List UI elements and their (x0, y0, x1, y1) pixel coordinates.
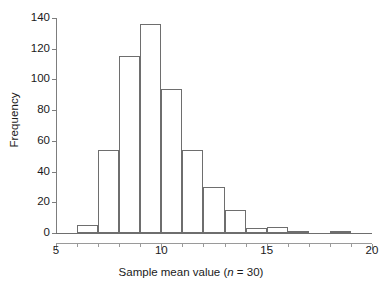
y-axis-tick-mark (52, 18, 56, 19)
y-axis-tick-mark (52, 172, 56, 173)
x-axis-tick-label: 10 (141, 244, 181, 257)
y-axis-tick-label: 100 (24, 74, 50, 86)
histogram-bar (225, 210, 246, 233)
histogram-bar (330, 231, 351, 233)
x-axis-tick-labels: 5101520 (56, 244, 372, 260)
y-axis-tick-mark (52, 233, 56, 234)
y-axis-tick-label: 80 (24, 104, 50, 116)
x-axis-tick-label: 5 (36, 244, 76, 257)
x-axis-title: Sample mean value (n = 30) (0, 266, 382, 278)
histogram-bar (203, 187, 224, 233)
x-axis-title-suffix: = 30) (234, 266, 264, 278)
y-axis-tick-label: 120 (24, 43, 50, 55)
histogram-bar (246, 228, 267, 233)
y-axis-tick-mark (52, 141, 56, 142)
histogram-figure: Frequency 020406080100120140 5101520 Sam… (0, 0, 382, 293)
y-axis-tick-label: 40 (24, 166, 50, 178)
y-axis-title-text: Frequency (8, 92, 20, 147)
histogram-bar (98, 150, 119, 233)
histogram-bar (182, 150, 203, 233)
y-axis-tick-mark (52, 202, 56, 203)
y-axis-tick-label: 20 (24, 197, 50, 209)
y-axis-tick-label: 60 (24, 135, 50, 147)
histogram-bar (119, 56, 140, 233)
y-axis-tick-label: 0 (24, 227, 50, 239)
y-axis-tick-label: 140 (24, 12, 50, 24)
histogram-bar (267, 227, 288, 233)
plot-area (56, 14, 372, 236)
histogram-bar (161, 89, 182, 233)
y-axis-tick-mark (52, 110, 56, 111)
x-axis-tick-label: 20 (352, 244, 382, 257)
histogram-bar (77, 225, 98, 233)
x-axis-tick-label: 15 (247, 244, 287, 257)
y-axis-tick-mark (52, 49, 56, 50)
histogram-bar (288, 231, 309, 233)
histogram-bar (140, 24, 161, 233)
histogram-bars (56, 14, 372, 234)
x-axis-title-prefix: Sample mean value ( (119, 266, 228, 278)
y-axis-tick-mark (52, 79, 56, 80)
